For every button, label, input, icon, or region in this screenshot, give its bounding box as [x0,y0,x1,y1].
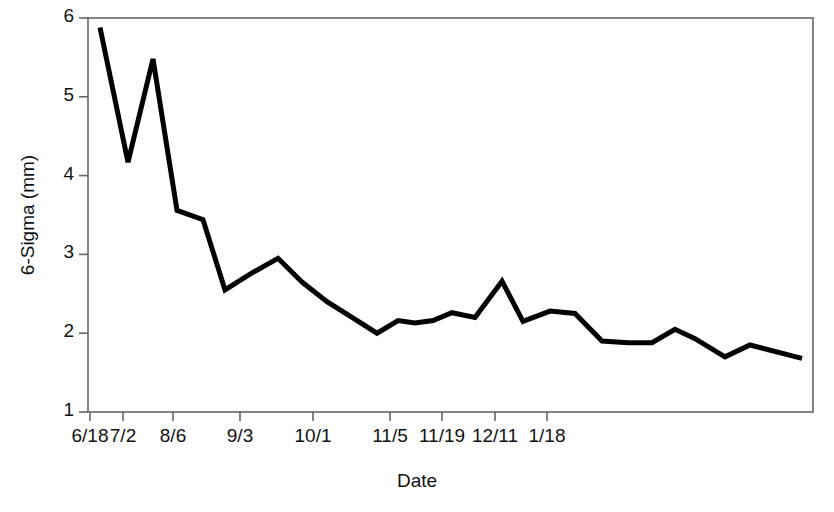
x-tick-label: 1/18 [507,425,587,447]
y-axis-ticks [79,18,88,412]
chart-container: 123456 6/187/28/69/310/111/511/1912/111/… [0,0,834,512]
x-tick-label: 10/1 [273,425,353,447]
x-axis-title: Date [0,470,834,492]
x-axis-ticks [90,412,547,421]
x-tick-label: 9/3 [200,425,280,447]
y-axis-title: 6-Sigma (mm) [14,18,42,412]
